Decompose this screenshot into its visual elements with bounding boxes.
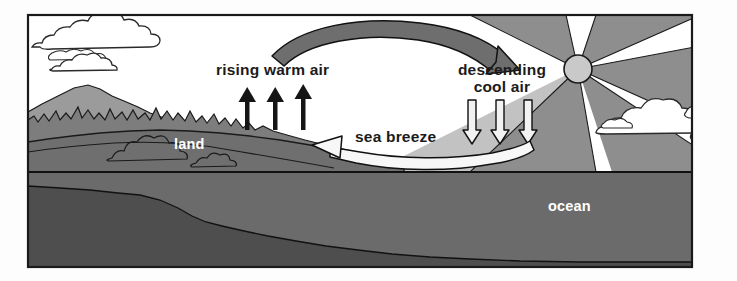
sun-icon: [564, 55, 592, 83]
sea-breeze-diagram: rising warm air descending cool air sea …: [0, 0, 737, 281]
label-descending-line2: cool air: [456, 79, 548, 96]
descending-cool-air-arrows: [463, 100, 537, 144]
cloud-right-tail-icon: [690, 128, 724, 142]
label-rising-warm-air: rising warm air: [216, 62, 329, 79]
label-descending-line1: descending: [456, 62, 548, 79]
label-land: land: [174, 137, 205, 153]
label-descending-cool-air: descending cool air: [456, 62, 548, 95]
label-sea-breeze: sea breeze: [355, 129, 436, 146]
ocean-group: [28, 172, 692, 267]
label-ocean: ocean: [548, 199, 591, 215]
